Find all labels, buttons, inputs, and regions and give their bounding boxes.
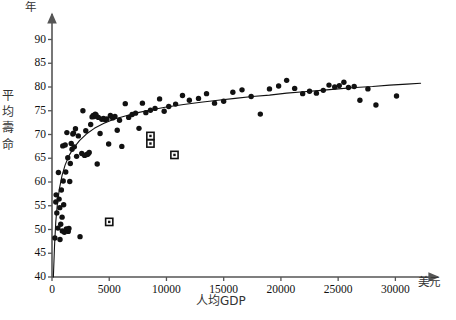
data-point bbox=[258, 111, 263, 116]
data-point bbox=[115, 128, 120, 133]
data-point bbox=[133, 110, 138, 115]
data-point bbox=[117, 118, 122, 123]
y-tick-label: 60 bbox=[20, 176, 46, 188]
data-point bbox=[284, 78, 289, 83]
y-tick-label: 70 bbox=[20, 129, 46, 141]
y-tick-label: 40 bbox=[20, 271, 46, 283]
y-tick-label: 45 bbox=[20, 247, 46, 259]
data-point bbox=[276, 83, 281, 88]
axis-ticks bbox=[48, 40, 395, 282]
y-tick-label: 50 bbox=[20, 224, 46, 236]
x-tick-label: 25000 bbox=[308, 284, 368, 296]
data-point bbox=[341, 80, 346, 85]
data-point bbox=[106, 141, 111, 146]
y-tick-label: 55 bbox=[20, 200, 46, 212]
data-point bbox=[337, 83, 342, 88]
y-axis-title-char-3: 壽 bbox=[2, 120, 14, 136]
data-point bbox=[332, 84, 337, 89]
data-point bbox=[212, 100, 217, 105]
x-axis-title: 人均GDP bbox=[196, 295, 246, 307]
fit-curve bbox=[53, 83, 420, 277]
y-tick-label: 65 bbox=[20, 152, 46, 164]
data-point bbox=[321, 88, 326, 93]
data-point bbox=[152, 106, 157, 111]
x-tick-label: 10000 bbox=[136, 284, 196, 296]
data-point bbox=[66, 226, 71, 231]
data-point bbox=[63, 169, 68, 174]
data-point bbox=[61, 178, 66, 183]
y-axis-title: 平 均 壽 命 bbox=[2, 88, 14, 153]
x-tick-label: 30000 bbox=[365, 284, 425, 296]
data-points bbox=[52, 78, 399, 243]
x-tick-label: 0 bbox=[22, 284, 82, 296]
x-tick-label: 5000 bbox=[79, 284, 139, 296]
data-point bbox=[62, 142, 67, 147]
data-point bbox=[97, 131, 102, 136]
data-point bbox=[76, 133, 81, 138]
data-point bbox=[394, 93, 399, 98]
data-point bbox=[140, 100, 145, 105]
x-tick-label: 15000 bbox=[194, 284, 254, 296]
outlier-point bbox=[106, 218, 113, 225]
y-axis-title-char-1: 平 bbox=[2, 88, 14, 104]
data-point bbox=[61, 202, 66, 207]
data-point bbox=[52, 235, 57, 240]
y-tick-label: 85 bbox=[20, 57, 46, 69]
data-point bbox=[180, 93, 185, 98]
data-point bbox=[204, 91, 209, 96]
y-tick-label: 90 bbox=[20, 34, 46, 46]
data-point bbox=[56, 196, 61, 201]
data-point bbox=[54, 210, 59, 215]
data-point bbox=[365, 86, 370, 91]
data-point bbox=[173, 101, 178, 106]
data-point bbox=[267, 86, 272, 91]
data-point bbox=[72, 144, 77, 149]
data-point bbox=[230, 90, 235, 95]
outlier-points bbox=[106, 132, 178, 225]
y-axis-title-char-4: 命 bbox=[2, 137, 14, 153]
outlier-point bbox=[147, 140, 154, 147]
data-point bbox=[58, 222, 63, 227]
data-point bbox=[292, 86, 297, 91]
data-point bbox=[87, 150, 92, 155]
data-point bbox=[351, 84, 356, 89]
y-axis-unit-label: 年 bbox=[25, 2, 36, 14]
data-point bbox=[248, 94, 253, 99]
x-tick-label: 20000 bbox=[251, 284, 311, 296]
data-point bbox=[143, 110, 148, 115]
data-point bbox=[77, 234, 82, 239]
data-point bbox=[239, 87, 244, 92]
data-point bbox=[300, 91, 305, 96]
y-axis-title-char-2: 均 bbox=[2, 104, 14, 120]
data-point bbox=[157, 96, 162, 101]
outlier-point bbox=[171, 151, 178, 158]
plot-area bbox=[0, 0, 456, 320]
data-point bbox=[83, 128, 88, 133]
data-point bbox=[221, 99, 226, 104]
data-point bbox=[314, 90, 319, 95]
data-point bbox=[59, 187, 64, 192]
data-point bbox=[346, 85, 351, 90]
data-point bbox=[65, 155, 70, 160]
data-point bbox=[187, 98, 192, 103]
data-point bbox=[373, 102, 378, 107]
fit-curve-path bbox=[53, 83, 420, 277]
data-point bbox=[166, 104, 171, 109]
data-point bbox=[68, 161, 73, 166]
data-point bbox=[73, 126, 78, 131]
data-point bbox=[357, 98, 362, 103]
data-point bbox=[57, 237, 62, 242]
data-point bbox=[95, 161, 100, 166]
data-point bbox=[59, 214, 64, 219]
data-point bbox=[64, 130, 69, 135]
data-point bbox=[307, 89, 312, 94]
data-point bbox=[119, 144, 124, 149]
outlier-point bbox=[147, 132, 154, 139]
data-point bbox=[80, 108, 85, 113]
data-point bbox=[123, 101, 128, 106]
data-point bbox=[56, 170, 61, 175]
data-point bbox=[88, 122, 93, 127]
data-point bbox=[326, 82, 331, 87]
data-point bbox=[74, 154, 79, 159]
data-point bbox=[161, 109, 166, 114]
